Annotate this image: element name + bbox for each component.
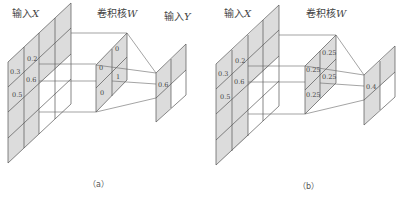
kernel-cell-value: 0.25 [306, 91, 320, 99]
input-cell-value: 0.2 [27, 55, 37, 63]
output-grid-y: 0.4 [364, 46, 395, 125]
input-x-label: 输入X [224, 7, 252, 19]
kernel-cell-value: 0.25 [322, 49, 336, 57]
kernel-cell-value: 0 [115, 45, 119, 53]
panel-b: 输入X 卷积核W 0.2 0.3 0.6 0.5 [216, 5, 395, 191]
kernel-grid-w: 0.25 0.25 0.25 0.25 [305, 35, 336, 114]
kernel-w-label: 卷积核W [97, 7, 138, 19]
input-grid-x: 0.2 0.3 0.6 0.5 [8, 3, 71, 163]
output-grid-y: 0.6 [156, 44, 186, 122]
kernel-cell-value: 0 [100, 89, 104, 97]
kernel-w-label: 卷积核W [306, 7, 347, 19]
input-cell-value: 0.6 [234, 78, 244, 86]
kernel-grid-w: 0 0 1 0 [96, 33, 127, 112]
kernel-cell-value: 0.25 [322, 73, 336, 81]
input-cell-value: 0.6 [26, 76, 36, 84]
output-cell-value: 0.6 [158, 81, 168, 89]
kernel-cell-value: 1 [116, 73, 120, 81]
convolution-diagram: 输入X 卷积核W 输入Y 0.2 0.3 0.6 0.5 [0, 0, 399, 200]
caption-a: （a） [88, 180, 109, 189]
input-cell-value: 0.3 [10, 68, 20, 76]
input-cell-value: 0.5 [220, 93, 230, 101]
input-x-label: 输入X [12, 7, 40, 19]
output-y-label: 输入Y [164, 10, 192, 22]
input-cell-value: 0.3 [218, 70, 228, 78]
caption-b: （b） [298, 182, 319, 191]
input-grid-x: 0.2 0.3 0.6 0.5 [216, 5, 279, 165]
output-cell-value: 0.4 [366, 83, 376, 91]
input-cell-value: 0.2 [235, 57, 245, 65]
input-cell-value: 0.5 [12, 91, 22, 99]
panel-a: 输入X 卷积核W 输入Y 0.2 0.3 0.6 0.5 [8, 3, 192, 189]
